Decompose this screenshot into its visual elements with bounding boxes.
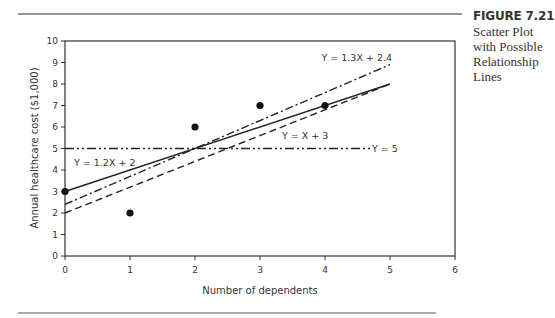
- figure-title: Scatter Plot with Possible Relationship …: [473, 24, 555, 84]
- y-tick-label: 5: [52, 144, 58, 154]
- y-tick-label: 1: [52, 230, 58, 240]
- x-tick-label: 4: [322, 265, 328, 275]
- x-tick-label: 1: [127, 265, 133, 275]
- x-axis-ticks: 0123456: [62, 256, 458, 275]
- y-tick-label: 10: [47, 36, 59, 46]
- y-axis-label: Annual healthcare cost ($1,000): [29, 67, 40, 228]
- line-label-x-3: Y = X + 3: [281, 130, 328, 141]
- line-label-1-2x-2: Y = 1.2X + 2: [73, 157, 135, 168]
- y-tick-label: 0: [52, 251, 58, 261]
- x-tick-label: 3: [257, 265, 263, 275]
- y-tick-label: 8: [52, 79, 58, 89]
- relationship-line: [65, 84, 390, 192]
- figure-number: FIGURE 7.21: [473, 8, 555, 24]
- data-point: [256, 102, 263, 109]
- x-tick-label: 6: [452, 265, 458, 275]
- data-point: [126, 209, 133, 216]
- line-label-y-5: Y = 5: [371, 143, 398, 154]
- x-tick-label: 2: [192, 265, 198, 275]
- figure-caption: FIGURE 7.21 Scatter Plot with Possible R…: [473, 8, 555, 84]
- x-tick-label: 0: [62, 265, 68, 275]
- data-point: [321, 102, 328, 109]
- y-tick-label: 3: [52, 187, 58, 197]
- x-tick-label: 5: [387, 265, 393, 275]
- y-tick-label: 6: [52, 122, 58, 132]
- relationship-lines: [65, 65, 390, 213]
- line-label-1-3x-2-4: Y = 1.3X + 2.4: [320, 52, 392, 63]
- x-axis-label: Number of dependents: [202, 285, 317, 296]
- data-point: [61, 188, 68, 195]
- y-tick-label: 9: [52, 58, 58, 68]
- y-axis-ticks: 012345678910: [47, 36, 65, 261]
- y-tick-label: 4: [52, 165, 58, 175]
- relationship-line: [65, 65, 390, 205]
- y-tick-label: 2: [52, 208, 58, 218]
- y-tick-label: 7: [52, 101, 58, 111]
- data-point: [191, 123, 198, 130]
